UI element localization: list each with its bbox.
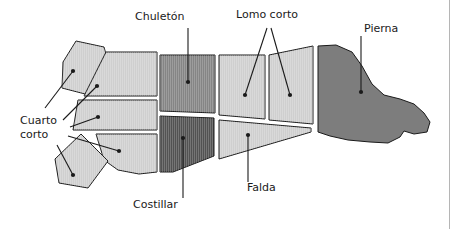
label-costillar: Costillar — [133, 198, 178, 211]
cut-lomo-corto-b — [269, 46, 313, 124]
label-pierna: Pierna — [364, 22, 398, 35]
label-falda: Falda — [247, 181, 276, 194]
label-lomo-corto: Lomo corto — [236, 8, 298, 21]
leader-cuarto-corto-1-dot — [71, 69, 75, 73]
cut-pierna — [318, 45, 430, 143]
cut-hatch-cuarto-corto-lower-band — [96, 134, 157, 174]
diagram-canvas: ChuletónLomo cortoPiernaCuartocortoCosti… — [0, 0, 454, 229]
label-line: Lomo corto — [236, 8, 298, 21]
cuts-diagram: ChuletónLomo cortoPiernaCuartocortoCosti… — [0, 0, 454, 229]
label-line: Costillar — [133, 198, 178, 211]
cut-costillar — [160, 116, 214, 172]
label-line: Pierna — [364, 22, 398, 35]
cut-lomo-corto-a — [219, 55, 265, 119]
leader-pierna-dot — [359, 90, 363, 94]
cut-hatch-falda — [219, 120, 311, 159]
cut-falda — [219, 120, 311, 159]
cut-cuarto-corto-lower-band — [96, 134, 157, 174]
cut-shape-pierna — [318, 45, 430, 143]
cut-hatch-costillar — [160, 116, 214, 172]
leader-chuleton-dot — [186, 80, 190, 84]
leader-lomo-corto-a-dot — [243, 93, 247, 97]
label-chuleton: Chuletón — [135, 10, 184, 23]
leader-costillar-dot — [181, 136, 185, 140]
cut-hatch-lomo-corto-a — [219, 55, 265, 119]
leader-cuarto-corto-4-dot — [117, 149, 121, 153]
leader-lomo-corto-b-dot — [288, 93, 292, 97]
leader-cuarto-corto-2-dot — [95, 84, 99, 88]
cut-hatch-lomo-corto-b — [269, 46, 313, 124]
label-line: Falda — [247, 181, 276, 194]
label-line: Chuletón — [135, 10, 184, 23]
cuts-layer — [55, 41, 430, 188]
label-line: corto — [20, 128, 49, 141]
leader-falda-dot — [246, 133, 250, 137]
cut-cuarto-corto-middle-band — [73, 100, 157, 130]
label-line: Cuarto — [20, 114, 57, 127]
leader-cuarto-corto-5-dot — [71, 173, 75, 177]
leader-cuarto-corto-3-dot — [96, 115, 100, 119]
cut-hatch-cuarto-corto-middle-band — [73, 100, 157, 130]
label-cuarto-corto: Cuartocorto — [20, 114, 57, 141]
